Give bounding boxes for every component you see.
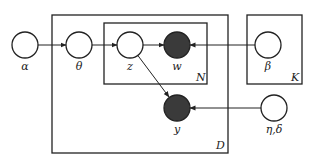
plate-n-label: N [195, 71, 206, 84]
node-y: y [164, 95, 190, 136]
node-y-label: y [173, 123, 181, 136]
node-eta-delta: η,δ [261, 95, 287, 136]
node-theta-label: θ [76, 60, 83, 73]
plate-diagram: D N K α θ z w β y η,δ [0, 0, 315, 165]
node-w: w [164, 32, 190, 73]
node-beta-label: β [264, 60, 271, 73]
node-beta: β [255, 32, 281, 73]
node-z-label: z [126, 60, 133, 73]
node-alpha: α [12, 32, 38, 73]
plate-d-label: D [215, 139, 225, 152]
node-z: z [117, 32, 143, 73]
node-theta: θ [66, 32, 92, 73]
node-eta-delta-label: η,δ [266, 123, 283, 136]
plate-k-label: K [290, 71, 300, 84]
node-alpha-label: α [21, 60, 29, 73]
node-w-label: w [172, 60, 182, 73]
